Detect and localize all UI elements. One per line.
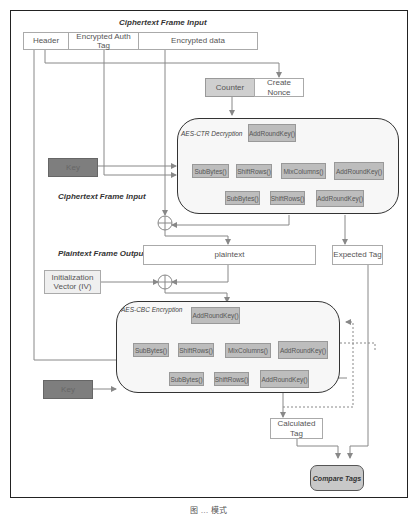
cbc-shiftrows: ShiftRows() — [178, 343, 214, 357]
ctr-subbytes: SubBytes() — [192, 164, 229, 178]
ctr-block-title: AES-CTR Decryption — [181, 130, 242, 137]
ctr-final-add-round-key: AddRoundKey() — [316, 190, 364, 207]
header-field: Header — [23, 32, 69, 50]
key-box-ctr: Key — [48, 158, 98, 177]
ciphertext-frame-input-label: Ciphertext Frame Input — [58, 192, 146, 201]
cbc-final-subbytes: SubBytes() — [169, 372, 204, 386]
cbc-block-title: AES-CBC Encryption — [121, 306, 182, 313]
cbc-mixcolumns: MixColumns() — [225, 343, 271, 358]
ctr-final-shiftrows: ShiftRows() — [270, 191, 305, 205]
cbc-final-add-round-key: AddRoundKey() — [260, 370, 309, 388]
compare-tags-box: Compare Tags — [310, 465, 364, 491]
auth-tag-field: Encrypted Auth Tag — [68, 32, 139, 50]
expected-tag-box: Expected Tag — [332, 245, 383, 265]
ciphertext-frame-input-title: Ciphertext Frame Input — [119, 18, 207, 27]
counter-box: Counter — [205, 78, 255, 97]
cbc-subbytes: SubBytes() — [133, 343, 169, 357]
figure-caption: 图 … 模式 — [0, 504, 417, 514]
encrypted-data-field: Encrypted data — [138, 32, 258, 50]
plaintext-frame-output-label: Plaintext Frame Output — [58, 249, 146, 258]
ctr-shiftrows: ShiftRows() — [236, 164, 272, 178]
create-nonce-box: Create Nonce — [254, 78, 304, 97]
calculated-tag-box: Calculated Tag — [270, 418, 323, 439]
iv-box: Initialization Vector (IV) — [44, 270, 101, 294]
key-box-cbc: Key — [43, 380, 93, 399]
ctr-initial-add-round-key: AddRoundKey() — [248, 124, 296, 142]
cbc-add-round-key: AddRoundKey() — [278, 341, 328, 359]
ctr-final-subbytes: SubBytes() — [225, 191, 260, 205]
ctr-mixcolumns: MixColumns() — [281, 163, 326, 179]
ctr-add-round-key: AddRoundKey() — [334, 162, 384, 180]
cbc-final-shiftrows: ShiftRows() — [214, 372, 249, 386]
plaintext-box: plaintext — [143, 245, 316, 265]
cbc-initial-add-round-key: AddRoundKey() — [191, 307, 240, 324]
